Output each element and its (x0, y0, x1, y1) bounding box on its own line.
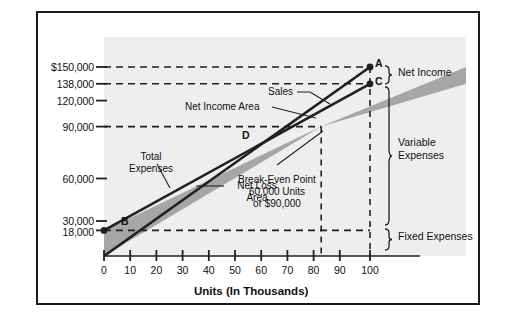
break-even-chart-figure: $150,000 138,000 120,000 90,000 60,000 3… (0, 0, 517, 317)
point-label-c: C (375, 75, 383, 87)
x-tick-label-70: 70 (274, 264, 300, 276)
variable-expenses-bracket (385, 87, 392, 225)
x-tick-label-60: 60 (248, 264, 274, 276)
bracket-label-fixed-expenses: Fixed Expenses (398, 230, 473, 243)
fixed-expenses-bracket (385, 229, 392, 250)
annotation-break-even-line2: 60,000 Units (232, 186, 322, 198)
point-a-dot (367, 64, 374, 71)
annotation-total-expenses-line2: Expenses (120, 163, 182, 175)
net-income-bracket (385, 66, 392, 84)
x-tick-label-50: 50 (222, 264, 248, 276)
x-axis-title: Units (In Thousands) (194, 285, 308, 297)
x-tick-label-90: 90 (327, 264, 353, 276)
annotation-break-even-line3: or $90,000 (232, 198, 322, 210)
x-tick-label-40: 40 (196, 264, 222, 276)
annotation-net-income-area: Net Income Area (185, 101, 259, 113)
point-b-dot (101, 227, 108, 234)
y-tick-label-120000: 120,000 (22, 95, 94, 107)
y-tick-label-90000: 90,000 (22, 121, 94, 133)
x-tick-label-30: 30 (170, 264, 196, 276)
y-tick-marks (96, 67, 107, 230)
bracket-label-variable-expenses-line1: Variable (398, 136, 444, 149)
y-tick-label-150000: $150,000 (22, 61, 94, 73)
x-tick-label-80: 80 (301, 264, 327, 276)
annotation-break-even-line1: Break-Even Point (232, 174, 322, 186)
annotation-total-expenses-line1: Total (120, 151, 182, 163)
point-label-d: D (242, 129, 250, 141)
x-tick-label-20: 20 (143, 264, 169, 276)
point-label-b: B (121, 215, 129, 227)
x-tick-label-100: 100 (357, 264, 383, 276)
x-tick-label-0: 0 (91, 264, 117, 276)
bracket-label-variable-expenses-line2: Expenses (398, 149, 444, 162)
y-tick-label-138000: 138,000 (22, 78, 94, 90)
bracket-label-net-income: Net Income (398, 66, 452, 79)
annotation-sales: Sales (268, 86, 293, 98)
point-label-a: A (375, 57, 383, 69)
y-tick-label-60000: 60,000 (22, 173, 94, 185)
point-c-dot (367, 80, 374, 87)
y-tick-label-18000: 18,000 (22, 226, 94, 238)
x-tick-label-10: 10 (117, 264, 143, 276)
